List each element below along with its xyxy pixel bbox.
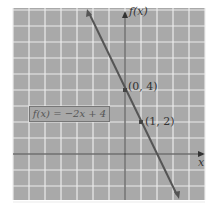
point-1-2	[139, 120, 143, 124]
point-label-0-4: (0, 4)	[128, 80, 158, 93]
y-axis-label: f(x)	[129, 5, 148, 18]
point-label-1-2: (1, 2)	[145, 115, 175, 128]
point-0-4	[123, 88, 127, 92]
x-axis-label: x	[198, 156, 204, 169]
equation-label: f(x) = −2x + 4	[29, 106, 110, 122]
